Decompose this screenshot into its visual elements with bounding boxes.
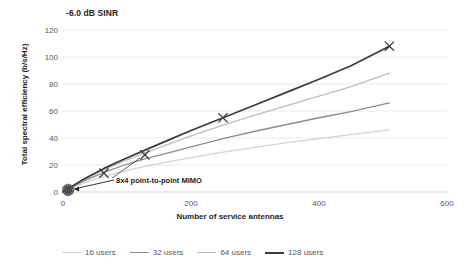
legend-swatch-64-users: [197, 252, 216, 253]
data-marker-x: [385, 42, 394, 51]
legend-label-128-users: 128 users: [288, 248, 323, 257]
data-point-markers: [99, 42, 394, 178]
legend-label-64-users: 64 users: [220, 248, 251, 257]
legend-item-64-users[interactable]: 64 users: [197, 248, 251, 257]
x-axis-title: Number of service antennas: [60, 212, 400, 221]
legend-item-32-users[interactable]: 32 users: [130, 248, 184, 257]
data-marker-x: [140, 150, 149, 159]
starburst-icon: [62, 184, 74, 196]
gridlines: [63, 30, 447, 192]
starburst-marker: [62, 184, 74, 196]
series-line-16-users: [63, 130, 389, 192]
legend-item-16-users[interactable]: 16 users: [62, 248, 116, 257]
legend-swatch-128-users: [265, 252, 284, 254]
legend-label-32-users: 32 users: [153, 248, 184, 257]
legend-label-16-users: 16 users: [85, 248, 116, 257]
annotation-label: 8x4 point-to-point MIMO: [116, 176, 202, 185]
legend-swatch-16-users: [62, 252, 81, 253]
legend-item-128-users[interactable]: 128 users: [265, 248, 323, 257]
data-marker-x: [218, 113, 227, 122]
chart-legend: 16 users 32 users 64 users 128 users: [62, 248, 422, 257]
plot-area: [0, 0, 471, 275]
legend-swatch-32-users: [130, 252, 149, 253]
chart-container: -6.0 dB SINR Total spectral efficiency (…: [0, 0, 471, 275]
series-lines: [63, 46, 389, 192]
